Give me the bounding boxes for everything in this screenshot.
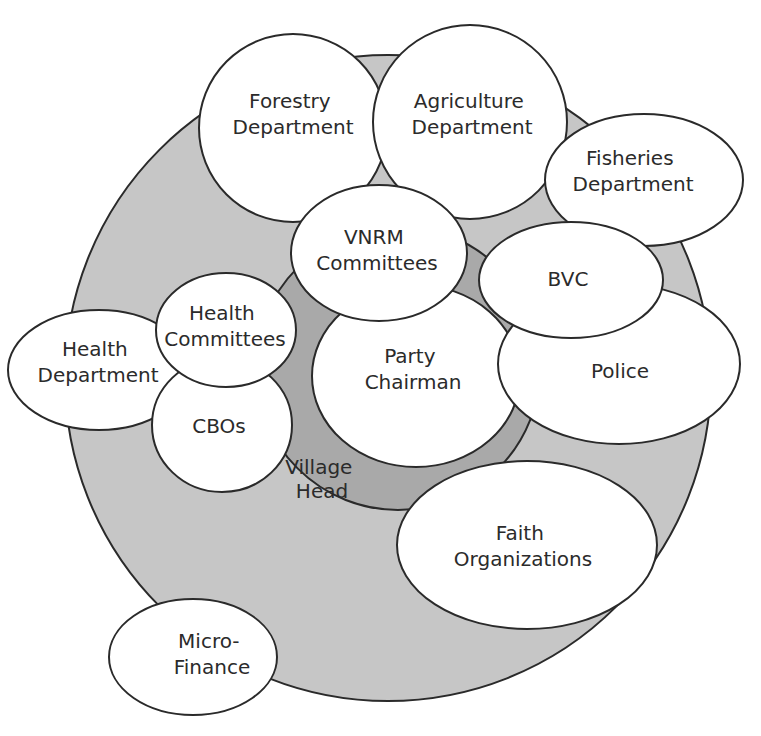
node-faith-organizations: Faith Organizations xyxy=(397,461,657,629)
village-head-label: Village Head xyxy=(285,455,359,503)
node-vnrm-committees: VNRM Committees xyxy=(291,185,467,321)
node-micro-finance: Micro- Finance xyxy=(109,599,277,715)
node-health-committees: Health Committees xyxy=(156,273,296,387)
node-bvc: BVC xyxy=(479,222,663,338)
svg-text:CBOs: CBOs xyxy=(192,414,246,438)
svg-text:BVC: BVC xyxy=(548,267,589,291)
svg-text:Police: Police xyxy=(591,359,649,383)
venn-diagram: Village Head Forestry Department Agricul… xyxy=(0,0,761,736)
